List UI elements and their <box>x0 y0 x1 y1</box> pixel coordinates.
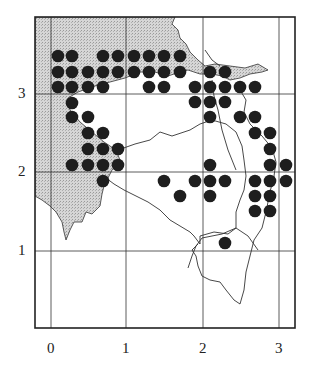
occurrence-dot <box>204 111 217 124</box>
occurrence-dot <box>219 175 232 188</box>
river-north <box>205 50 220 66</box>
occurrence-dot <box>66 66 79 79</box>
occurrence-dot <box>264 127 277 140</box>
occurrence-dot <box>82 111 95 124</box>
occurrence-dot <box>204 96 217 109</box>
occurrence-dot <box>249 175 262 188</box>
occurrence-dot <box>234 81 247 94</box>
x-tick-label: 2 <box>199 341 207 356</box>
occurrence-dot <box>219 237 232 250</box>
occurrence-dot <box>97 66 110 79</box>
occurrence-dot <box>112 66 125 79</box>
occurrence-dot <box>249 190 262 203</box>
occurrence-dot <box>204 81 217 94</box>
x-tick-label: 1 <box>122 341 130 356</box>
occurrence-dot <box>82 127 95 140</box>
occurrence-dot <box>264 190 277 203</box>
occurrence-dot <box>82 143 95 156</box>
occurrence-dot <box>264 159 277 172</box>
occurrence-dot <box>264 175 277 188</box>
x-tick-label: 3 <box>275 341 283 356</box>
occurrence-dot <box>264 205 277 218</box>
occurrence-dot <box>82 159 95 172</box>
occurrence-dot <box>66 159 79 172</box>
occurrence-dot <box>189 81 202 94</box>
occurrence-dot <box>280 175 293 188</box>
occurrence-dot <box>219 66 232 79</box>
occurrence-dot <box>97 143 110 156</box>
occurrence-dot <box>189 175 202 188</box>
occurrence-dot <box>52 50 65 63</box>
occurrence-dot <box>143 50 156 63</box>
occurrence-dot <box>249 205 262 218</box>
occurrence-dot <box>204 175 217 188</box>
occurrence-dot <box>158 66 171 79</box>
occurrence-dot <box>52 66 65 79</box>
occurrence-dot <box>66 111 79 124</box>
y-tick-label: 3 <box>18 86 26 101</box>
occurrence-dot <box>82 66 95 79</box>
occurrence-dot <box>128 66 141 79</box>
occurrence-dot <box>174 50 187 63</box>
occurrence-dot <box>174 190 187 203</box>
occurrence-dot <box>112 50 125 63</box>
occurrence-dot <box>280 159 293 172</box>
occurrence-dot <box>249 127 262 140</box>
occurrence-dot <box>158 175 171 188</box>
occurrence-dot <box>204 159 217 172</box>
occurrence-dot <box>128 50 141 63</box>
distribution-map <box>0 0 310 373</box>
occurrence-dot <box>97 127 110 140</box>
occurrence-dot <box>97 81 110 94</box>
occurrence-dot <box>204 66 217 79</box>
river-mid <box>212 80 236 170</box>
y-tick-label: 1 <box>18 243 26 258</box>
occurrence-dot <box>66 97 79 110</box>
occurrence-dot <box>97 175 110 188</box>
occurrence-dot <box>219 81 232 94</box>
occurrence-dot <box>66 81 79 94</box>
occurrence-dot <box>112 143 125 156</box>
occurrence-dot <box>66 50 79 63</box>
occurrence-dot <box>189 96 202 109</box>
occurrence-dot <box>97 50 110 63</box>
occurrence-dot <box>112 159 125 172</box>
occurrence-dot <box>158 81 171 94</box>
occurrence-dot <box>204 190 217 203</box>
occurrence-dot <box>143 66 156 79</box>
occurrence-dot <box>234 111 247 124</box>
occurrence-dot <box>249 81 262 94</box>
y-tick-label: 2 <box>18 164 26 179</box>
occurrence-dot <box>174 66 187 79</box>
x-tick-label: 0 <box>47 341 55 356</box>
occurrence-dot <box>143 81 156 94</box>
occurrence-dot <box>249 111 262 124</box>
occurrence-dot <box>82 81 95 94</box>
occurrence-dot <box>158 50 171 63</box>
occurrence-dot <box>52 81 65 94</box>
occurrence-dot <box>219 96 232 109</box>
occurrence-dot <box>97 159 110 172</box>
occurrence-dot <box>264 143 277 156</box>
